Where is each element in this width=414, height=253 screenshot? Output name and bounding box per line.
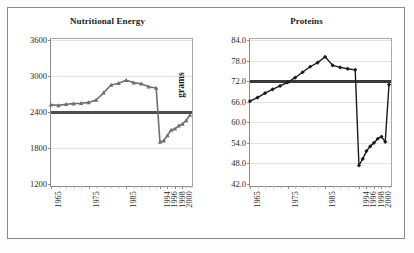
x-axis-minor-tick [59, 186, 60, 188]
y-axis-tick-label: 72.0 [231, 76, 246, 86]
x-axis-minor-tick [104, 186, 105, 188]
series-layer [250, 39, 391, 186]
x-axis-tick-mark [374, 186, 375, 189]
y-axis-tick-label: 3600 [30, 35, 47, 45]
data-point-marker [387, 82, 391, 86]
x-axis-tick-mark [182, 186, 183, 189]
x-axis-minor-tick [66, 186, 67, 188]
data-point-marker [188, 113, 192, 117]
data-point-marker [338, 65, 342, 69]
x-axis-tick-label: 1975 [291, 191, 300, 208]
data-point-marker [278, 84, 282, 88]
x-axis-tick-mark [167, 186, 168, 189]
y-axis-tick-label: 3000 [30, 71, 47, 81]
plot-area-right: 42.048.054.060.066.072.078.084.019651975… [249, 38, 392, 187]
y-axis-tick-label: 60.0 [231, 117, 246, 127]
x-axis-minor-tick [186, 186, 187, 188]
x-axis-tick-mark [160, 186, 161, 189]
x-axis-minor-tick [310, 186, 311, 188]
x-axis-minor-tick [385, 186, 386, 188]
y-axis-tick-label: 48.0 [231, 158, 246, 168]
x-axis-tick-mark [250, 186, 251, 189]
series-line [51, 80, 190, 142]
x-axis-minor-tick [179, 186, 180, 188]
x-axis-minor-tick [378, 186, 379, 188]
x-axis-minor-tick [295, 186, 296, 188]
y-axis-tick-label: 84.0 [231, 35, 246, 45]
x-axis-minor-tick [363, 186, 364, 188]
series-line [250, 57, 389, 166]
x-axis-minor-tick [171, 186, 172, 188]
data-point-marker [353, 68, 357, 72]
x-axis-minor-tick [156, 186, 157, 188]
x-axis-tick-label: 1985 [328, 191, 337, 208]
x-axis-tick-mark [325, 186, 326, 189]
x-axis-tick-mark [381, 186, 382, 189]
y-axis-tick-label: 1200 [30, 179, 47, 189]
chart-panel-nutritional-energy: Nutritional Energy Kcal 1200180024003000… [8, 8, 207, 240]
x-axis-tick-mark [89, 186, 90, 189]
y-axis-tick-label: 42.0 [231, 179, 246, 189]
y-axis-title-right: grams [176, 55, 186, 115]
y-axis-tick-label: 1800 [30, 143, 47, 153]
x-axis-minor-tick [389, 186, 390, 188]
x-axis-minor-tick [355, 186, 356, 188]
x-axis-minor-tick [141, 186, 142, 188]
x-axis-tick-label: 1975 [92, 191, 101, 208]
x-axis-tick-mark [359, 186, 360, 189]
x-axis-tick-mark [288, 186, 289, 189]
x-axis-tick-mark [175, 186, 176, 189]
x-axis-minor-tick [74, 186, 75, 188]
x-axis-minor-tick [370, 186, 371, 188]
y-axis-tick-label: 54.0 [231, 138, 246, 148]
x-axis-tick-label: 1985 [129, 191, 138, 208]
x-axis-minor-tick [119, 186, 120, 188]
x-axis-minor-tick [111, 186, 112, 188]
data-point-marker [346, 67, 350, 71]
x-axis-minor-tick [348, 186, 349, 188]
figure-canvas: Nutritional Energy Kcal 1200180024003000… [0, 0, 414, 253]
x-axis-minor-tick [81, 186, 82, 188]
x-axis-tick-mark [51, 186, 52, 189]
chart-title-right: Proteins [207, 16, 406, 26]
x-axis-minor-tick [280, 186, 281, 188]
x-axis-minor-tick [273, 186, 274, 188]
y-axis-tick-label: 2400 [30, 107, 47, 117]
x-axis-minor-tick [318, 186, 319, 188]
x-axis-minor-tick [265, 186, 266, 188]
plot-area-left: 1200180024003000360019651975198519941996… [50, 38, 193, 187]
x-axis-tick-label: 2000 [185, 191, 194, 208]
x-axis-tick-label: 2000 [384, 191, 393, 208]
x-axis-minor-tick [190, 186, 191, 188]
chart-title-left: Nutritional Energy [8, 16, 207, 26]
x-axis-tick-mark [126, 186, 127, 189]
x-axis-minor-tick [258, 186, 259, 188]
y-axis-tick-label: 66.0 [231, 97, 246, 107]
x-axis-minor-tick [164, 186, 165, 188]
chart-panel-proteins: Proteins grams 42.048.054.060.066.072.07… [207, 8, 406, 240]
x-axis-minor-tick [96, 186, 97, 188]
x-axis-minor-tick [303, 186, 304, 188]
x-axis-tick-mark [366, 186, 367, 189]
x-axis-minor-tick [333, 186, 334, 188]
figure-frame: Nutritional Energy Kcal 1200180024003000… [7, 7, 405, 239]
series-layer [51, 39, 192, 186]
x-axis-tick-label: 1965 [253, 191, 262, 208]
x-axis-tick-label: 1965 [54, 191, 63, 208]
y-axis-tick-label: 78.0 [231, 56, 246, 66]
x-axis-minor-tick [340, 186, 341, 188]
x-axis-minor-tick [134, 186, 135, 188]
x-axis-minor-tick [149, 186, 150, 188]
